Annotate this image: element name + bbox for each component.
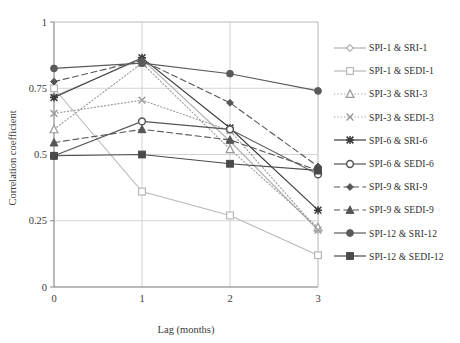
legend-item[interactable]: SPI-1 & SEDI-1 <box>333 59 458 82</box>
x-tick-label: 3 <box>315 293 320 304</box>
series-line <box>54 63 318 227</box>
legend-label: SPI-1 & SEDI-1 <box>369 65 434 76</box>
y-axis-title: Correlation coefficient <box>7 110 18 205</box>
y-tick-label: 0.5 <box>34 149 47 160</box>
legend-label: SPI-6 & SEDI-6 <box>369 158 434 169</box>
x-tick-label: 2 <box>227 293 232 304</box>
x-tick-label: 1 <box>139 293 144 304</box>
legend-label: SPI-12 & SEDI-12 <box>369 251 444 262</box>
legend-item[interactable]: SPI-6 & SEDI-6 <box>333 152 458 175</box>
y-tick-label: 0.75 <box>29 83 47 94</box>
series-line <box>54 60 318 166</box>
legend-swatch <box>333 157 367 171</box>
series-line <box>54 59 318 230</box>
series-layer <box>50 54 322 259</box>
chart-series <box>51 56 322 234</box>
legend-label: SPI-6 & SRI-6 <box>369 135 427 146</box>
data-point-marker <box>227 126 234 133</box>
legend-item[interactable]: SPI-9 & SEDI-9 <box>333 198 458 221</box>
chart-series <box>51 57 322 170</box>
chart-series <box>51 97 322 234</box>
legend-item[interactable]: SPI-3 & SEDI-3 <box>333 106 458 129</box>
legend-label: SPI-12 & SRI-12 <box>369 228 437 239</box>
chart-series <box>51 118 322 178</box>
chart-series <box>51 60 322 95</box>
legend-label: SPI-3 & SEDI-3 <box>369 112 434 123</box>
series-line <box>54 121 318 174</box>
legend-swatch <box>333 133 367 147</box>
data-point-marker <box>315 88 322 95</box>
legend-swatch <box>333 249 367 263</box>
y-tick-label: 1 <box>42 17 47 28</box>
data-point-marker <box>347 253 354 260</box>
y-tick-label: 0 <box>42 282 47 293</box>
tick-text-layer: 00.250.50.7510123 <box>29 17 321 304</box>
data-point-marker <box>227 212 234 219</box>
series-line <box>54 88 318 255</box>
data-point-marker <box>314 206 322 214</box>
chart-series <box>51 85 322 259</box>
legend-swatch <box>333 64 367 78</box>
data-point-marker <box>51 78 58 85</box>
data-point-marker <box>51 65 58 72</box>
x-axis-title: Lag (months) <box>158 324 215 336</box>
legend-swatch <box>333 110 367 124</box>
data-point-marker <box>346 136 354 144</box>
data-point-marker <box>227 160 234 167</box>
legend-item[interactable]: SPI-12 & SRI-12 <box>333 222 458 245</box>
data-point-marker <box>347 160 354 167</box>
legend-label: SPI-9 & SRI-9 <box>369 181 427 192</box>
data-point-marker <box>315 252 322 259</box>
legend-swatch <box>333 203 367 217</box>
legend-swatch <box>333 180 367 194</box>
legend-label: SPI-1 & SRI-1 <box>369 42 427 53</box>
data-point-marker <box>347 67 354 74</box>
data-point-marker <box>139 118 146 125</box>
legend-item[interactable]: SPI-6 & SRI-6 <box>333 129 458 152</box>
data-point-marker <box>315 167 322 174</box>
series-line <box>54 63 318 91</box>
legend-item[interactable]: SPI-1 & SRI-1 <box>333 36 458 59</box>
data-point-marker <box>347 44 354 51</box>
legend-item[interactable]: SPI-12 & SEDI-12 <box>333 245 458 268</box>
data-point-marker <box>139 151 146 158</box>
data-point-marker <box>50 94 58 102</box>
y-tick-label: 0.25 <box>29 215 47 226</box>
series-line <box>54 100 318 230</box>
data-point-marker <box>139 60 146 67</box>
data-point-marker <box>50 125 58 133</box>
data-point-marker <box>139 188 146 195</box>
data-point-marker <box>51 152 58 159</box>
legend-item[interactable]: SPI-3 & SRI-3 <box>333 82 458 105</box>
legend-swatch <box>333 41 367 55</box>
legend-item[interactable]: SPI-9 & SRI-9 <box>333 175 458 198</box>
chart-series <box>50 54 322 214</box>
legend-label: SPI-3 & SRI-3 <box>369 88 427 99</box>
legend-swatch <box>333 226 367 240</box>
x-tick-label: 0 <box>51 293 56 304</box>
chart-figure: 00.250.50.7510123 Lag (months) Correlati… <box>0 0 460 343</box>
data-point-marker <box>51 85 58 92</box>
legend-label: SPI-9 & SEDI-9 <box>369 204 434 215</box>
legend-swatch <box>333 87 367 101</box>
data-point-marker <box>347 183 354 190</box>
data-point-marker <box>346 90 354 98</box>
chart-series <box>50 59 322 231</box>
chart-series <box>50 125 322 174</box>
data-point-marker <box>347 230 354 237</box>
data-point-marker <box>138 125 146 133</box>
chart-legend: SPI-1 & SRI-1SPI-1 & SEDI-1SPI-3 & SRI-3… <box>333 36 458 268</box>
data-point-marker <box>227 70 234 77</box>
